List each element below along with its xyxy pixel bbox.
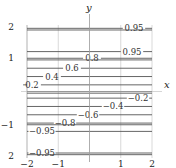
contour-label: −0.2 [128,93,149,103]
y-axis-label: y [85,2,92,13]
x-tick-label: −1 [52,159,65,168]
contour-label: −0.6 [78,110,99,120]
y-tick-label: −1 [1,120,14,130]
x-tick-label: 1 [118,159,124,168]
axes [21,14,162,162]
y-tick-label: 1 [8,53,14,63]
contour-labels: 0.950.950.80.60.40.2−0.2−0.4−0.6−0.8−0.9… [25,23,148,158]
x-axis-label: x [164,79,170,90]
x-tick-label: −2 [20,159,33,168]
contour-label: 0.95 [125,23,144,33]
contour-plot: 0.950.950.80.60.40.2−0.2−0.4−0.6−0.8−0.9… [0,0,176,168]
x-tick-label: 2 [149,159,155,168]
y-tick-label: 2 [8,151,14,161]
contour-label: −0.95 [29,148,55,158]
contour-label: −0.95 [29,126,55,136]
contour-label: −0.8 [55,118,76,128]
contour-label: 0.8 [85,53,99,63]
contour-label: 0.95 [123,47,142,57]
contour-label: 0.4 [45,72,59,82]
y-tick-label: 2 [8,22,14,32]
contour-label: 0.2 [25,80,39,90]
contour-label: −0.4 [103,101,124,111]
contour-label: 0.6 [65,63,79,73]
